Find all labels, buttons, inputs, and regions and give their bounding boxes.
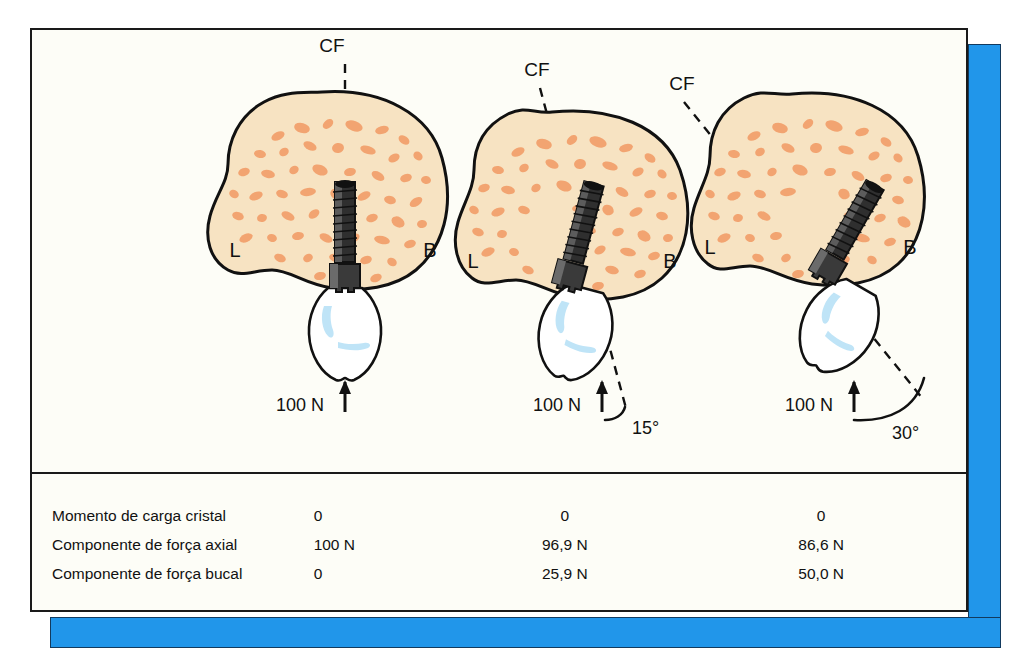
row2-value-30deg: 50,0 N [690,560,952,589]
force-label-panel30: 100 N [785,395,833,415]
row2-value-15deg: 25,9 N [439,560,690,589]
panel-30-degrees-group: CF L B 100 N 30° [669,73,924,443]
row-label-axial-force-component: Componente de força axial [52,531,314,560]
row2-value-0deg: 0 [314,560,440,589]
cf-label-panel15: CF [524,59,549,80]
force-label-panel15: 100 N [533,395,581,415]
force-arrow-panel15 [596,380,608,412]
row-label-buccal-force-component: Componente de força bucal [52,560,314,589]
force-arrow-panel0 [339,380,351,412]
crown-shape-panel0 [309,288,381,381]
lingual-label-panel0: L [229,239,240,261]
crown-shape-panel30 [783,269,892,385]
card-shadow-bottom [50,617,1001,648]
buccal-label-panel30: B [903,236,916,258]
implant-diagram-svg: CF L B 100 N [32,30,966,472]
lingual-label-panel30: L [704,236,715,258]
angle-label-panel30: 30° [892,423,919,443]
angle-label-panel15: 15° [632,418,659,438]
row1-value-15deg: 96,9 N [439,531,690,560]
angle-arc-panel15 [605,407,625,420]
implant-panel0 [330,180,360,292]
row1-value-30deg: 86,6 N [690,531,952,560]
table-row: Momento de carga cristal 0 0 0 [52,502,952,531]
table-row: Componente de força axial 100 N 96,9 N 8… [52,531,952,560]
lingual-label-panel15: L [467,250,478,272]
row0-value-0deg: 0 [314,502,440,531]
results-table: Momento de carga cristal 0 0 0 Component… [52,502,952,588]
illustration-area: CF L B 100 N [32,30,966,472]
row-label-crestal-load-moment: Momento de carga cristal [52,502,314,531]
cf-label-panel30: CF [669,73,694,94]
cf-label-panel0: CF [319,35,344,56]
buccal-label-panel0: B [423,239,436,261]
angle-arc-panel30 [854,378,924,420]
row0-value-15deg: 0 [439,502,690,531]
force-label-panel0: 100 N [276,395,324,415]
force-arrow-panel30 [848,380,860,412]
buccal-label-panel15: B [663,250,676,272]
card-shadow-right [968,44,1001,632]
panel-0-degrees-group: CF L B 100 N [208,35,448,415]
results-table-area: Momento de carga cristal 0 0 0 Component… [32,474,966,612]
panel-15-degrees-group: CF L B 100 N 15° [455,59,687,438]
table-row: Componente de força bucal 0 25,9 N 50,0 … [52,560,952,589]
row0-value-30deg: 0 [690,502,952,531]
figure-card: CF L B 100 N [30,28,968,612]
figure-root: CF L B 100 N [0,0,1016,659]
row1-value-0deg: 100 N [314,531,440,560]
